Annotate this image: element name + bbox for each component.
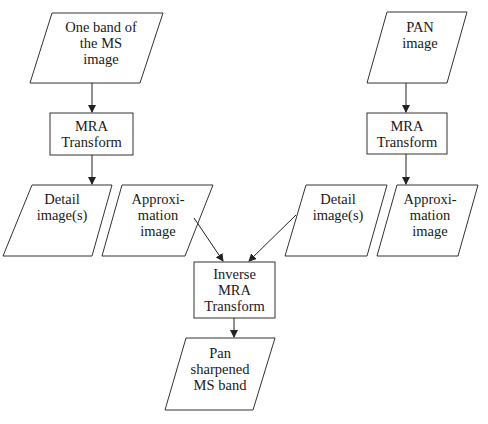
detail-right-label: Detail image(s)	[298, 191, 378, 223]
ms-band-label: One band of the MS image	[46, 19, 156, 67]
detail-left-line1: Detail	[22, 191, 102, 207]
mra-right-line1: MRA	[367, 118, 447, 134]
mra-left-line2: Transform	[50, 134, 133, 150]
approx-right-line3: image	[390, 223, 470, 239]
pan-sharpened-line1: Pan	[175, 345, 265, 361]
mra-left-label: MRA Transform	[50, 118, 133, 150]
detail-left-label: Detail image(s)	[22, 191, 102, 223]
inverse-mra-label: Inverse MRA Transform	[194, 266, 275, 314]
approx-right-label: Approxi- mation image	[390, 191, 470, 239]
ms-band-line2: the MS	[46, 35, 156, 51]
pan-sharpened-line3: MS band	[175, 377, 265, 393]
pan-image-line2: image	[380, 35, 460, 51]
ms-band-line3: image	[46, 51, 156, 67]
pan-sharpened-label: Pan sharpened MS band	[175, 345, 265, 393]
ms-band-line1: One band of	[46, 19, 156, 35]
edge-approx-left-to-inverse	[194, 218, 223, 261]
mra-right-label: MRA Transform	[367, 118, 447, 150]
pan-sharpened-line2: sharpened	[175, 361, 265, 377]
inverse-mra-line3: Transform	[194, 298, 275, 314]
approx-left-line3: image	[118, 223, 198, 239]
approx-left-line2: mation	[118, 207, 198, 223]
detail-right-line1: Detail	[298, 191, 378, 207]
approx-right-line1: Approxi-	[390, 191, 470, 207]
approx-left-line1: Approxi-	[118, 191, 198, 207]
detail-left-line2: image(s)	[22, 207, 102, 223]
inverse-mra-line2: MRA	[194, 282, 275, 298]
pan-image-line1: PAN	[380, 19, 460, 35]
inverse-mra-line1: Inverse	[194, 266, 275, 282]
pan-image-label: PAN image	[380, 19, 460, 51]
mra-right-line2: Transform	[367, 134, 447, 150]
detail-right-line2: image(s)	[298, 207, 378, 223]
approx-right-line2: mation	[390, 207, 470, 223]
approx-left-label: Approxi- mation image	[118, 191, 198, 239]
mra-left-line1: MRA	[50, 118, 133, 134]
